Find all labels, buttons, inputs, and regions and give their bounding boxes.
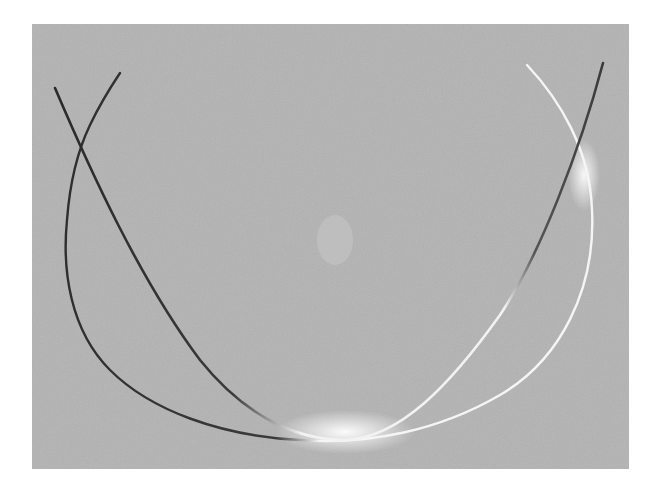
curves-drawing (32, 24, 629, 469)
right-glow (568, 139, 600, 211)
center-faint-spot (317, 215, 353, 265)
photograph-plate (32, 24, 629, 469)
